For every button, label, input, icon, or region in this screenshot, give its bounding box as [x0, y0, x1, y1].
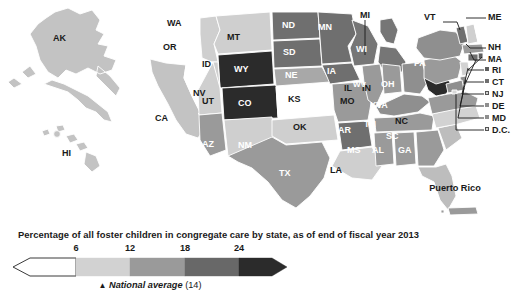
- legend-band-0-6[interactable]: [13, 258, 76, 276]
- inset-label-puerto-rico: Puerto Rico: [429, 183, 481, 193]
- swatch-NJ: [485, 91, 489, 95]
- callout-label-ME: ME: [488, 12, 502, 22]
- national-average-value: (14): [185, 280, 201, 290]
- legend-tick-18: 18: [180, 243, 190, 253]
- legend-tick-6: 6: [73, 243, 78, 253]
- us-map: AK HI WA OR ID MT NV CA WY UT CO AZ NM N…: [0, 0, 516, 218]
- swatch-DC: [485, 127, 489, 131]
- callout-label-NH: NH: [488, 42, 501, 52]
- callout-label-RI: RI: [492, 65, 501, 75]
- callout-label-NJ: NJ: [492, 89, 504, 99]
- legend-tick-labels: 6 12 18 24: [0, 243, 300, 256]
- legend-band-12-18[interactable]: [130, 258, 185, 276]
- callout-label-MD: MD: [492, 113, 506, 123]
- legend-bar-svg: [0, 256, 300, 278]
- callout-label-MA: MA: [488, 54, 502, 64]
- national-average-label: National average: [109, 280, 183, 290]
- swatch-MD: [485, 115, 489, 119]
- legend-band-18-24[interactable]: [185, 258, 239, 276]
- legend-band-24plus[interactable]: [239, 258, 287, 276]
- swatch-RI: [485, 67, 489, 71]
- legend-band-6-12[interactable]: [76, 258, 130, 276]
- legend-color-bar: [0, 256, 300, 278]
- swatch-CT: [485, 79, 489, 83]
- legend-caption: Percentage of all foster children in con…: [18, 229, 419, 240]
- callout-label-DC: D.C.: [492, 125, 510, 135]
- choropleth-figure: AK HI WA OR ID MT NV CA WY UT CO AZ NM N…: [0, 0, 516, 304]
- national-average-annotation: ▲ National average (14): [0, 280, 300, 290]
- swatch-DE: [485, 103, 489, 107]
- legend: Percentage of all foster children in con…: [0, 218, 516, 304]
- legend-tick-24: 24: [234, 243, 244, 253]
- legend-tick-12: 12: [125, 243, 135, 253]
- callout-label-CT: CT: [492, 77, 504, 87]
- callout-label-DE: DE: [492, 101, 505, 111]
- national-average-marker-icon: ▲: [99, 281, 107, 290]
